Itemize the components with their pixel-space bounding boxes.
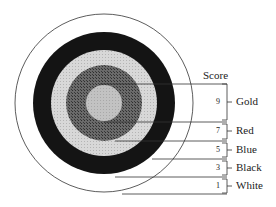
archery-target-diagram: Score 9 Gold 7 Red 5 Blue 3 Black 1 Whit… (0, 0, 276, 207)
score-gold: 9 (216, 98, 220, 106)
label-black: Black (236, 162, 262, 173)
score-red: 7 (216, 127, 220, 135)
ring-gold (86, 85, 122, 121)
label-gold: Gold (236, 96, 258, 107)
score-header: Score (203, 70, 228, 81)
label-blue: Blue (236, 144, 257, 155)
label-red: Red (236, 125, 254, 136)
target-rings (0, 0, 276, 207)
score-blue: 5 (216, 146, 220, 154)
label-white: White (236, 180, 263, 191)
score-white: 1 (216, 182, 220, 190)
score-black: 3 (216, 164, 220, 172)
